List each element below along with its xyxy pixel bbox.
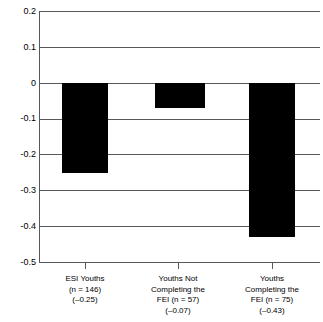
- x-label-youths-not-completing-fei-line-2: Completing the: [133, 285, 223, 296]
- bar-youths-not-completing-fei: [155, 83, 205, 108]
- gridline-0_2: [39, 11, 320, 12]
- x-label-youths-completing-fei-line-3: FEI (n = 75): [227, 295, 317, 306]
- y-tick-label-0_2: 0.2: [2, 7, 36, 16]
- x-label-esi-youths: ESI Youths (n = 146) (–0.25): [40, 274, 130, 306]
- x-tick-3: [272, 263, 273, 269]
- x-label-youths-completing-fei: Youths Completing the FEI (n = 75) (–0.4…: [227, 274, 317, 316]
- y-tick-label-0: 0: [2, 79, 36, 88]
- y-tick-label-n0_4: -0.4: [2, 222, 36, 231]
- y-tick-label-n0_3: -0.3: [2, 186, 36, 195]
- x-label-youths-completing-fei-line-4: (–0.43): [227, 306, 317, 317]
- gridline-n0_5: [39, 262, 320, 263]
- bar-esi-youths: [62, 83, 108, 173]
- x-label-esi-youths-line-1: ESI Youths: [40, 274, 130, 285]
- x-label-youths-completing-fei-line-1: Youths: [227, 274, 317, 285]
- x-tick-1: [85, 263, 86, 269]
- gridline-0_1: [39, 47, 320, 48]
- x-label-esi-youths-line-3: (–0.25): [40, 295, 130, 306]
- y-tick-label-0_1: 0.1: [2, 43, 36, 52]
- y-tick-label-n0_5: -0.5: [2, 258, 36, 267]
- bar-youths-completing-fei: [249, 83, 295, 237]
- plot-area: [39, 11, 320, 262]
- y-tick-label-n0_1: -0.1: [2, 114, 36, 123]
- x-label-esi-youths-line-2: (n = 146): [40, 285, 130, 296]
- x-label-youths-not-completing-fei-line-1: Youths Not: [133, 274, 223, 285]
- x-label-youths-not-completing-fei-line-3: FEI (n = 57): [133, 295, 223, 306]
- x-tick-2: [178, 263, 179, 269]
- y-tick-label-n0_2: -0.2: [2, 150, 36, 159]
- x-label-youths-not-completing-fei-line-4: (–0.07): [133, 306, 223, 317]
- x-label-youths-not-completing-fei: Youths Not Completing the FEI (n = 57) (…: [133, 274, 223, 316]
- bar-chart: 0.2 0.1 0 -0.1 -0.2 -0.3 -0.4 -0.5 ESI Y…: [0, 0, 323, 322]
- x-label-youths-completing-fei-line-2: Completing the: [227, 285, 317, 296]
- x-axis-category-labels: ESI Youths (n = 146) (–0.25) Youths Not …: [0, 274, 323, 322]
